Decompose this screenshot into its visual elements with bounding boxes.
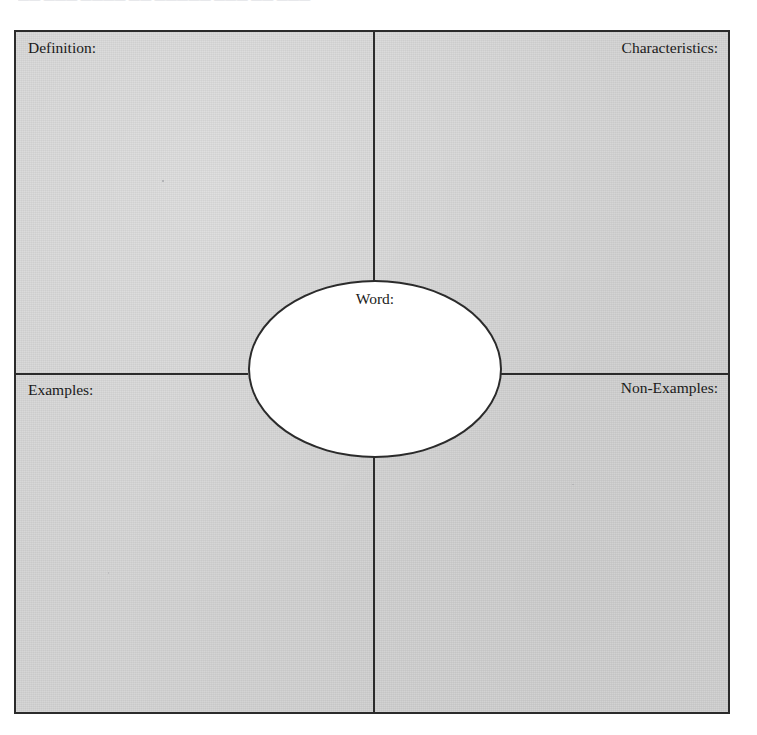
horizontal-divider-right (500, 373, 728, 375)
center-word-ellipse: Word: (248, 280, 502, 458)
quadrant-label-definition: Definition: (28, 38, 96, 57)
center-word-label: Word: (250, 289, 500, 308)
frayer-model-organizer: Definition: Characteristics: Examples: N… (14, 30, 730, 714)
scan-speck (108, 572, 109, 574)
vertical-divider-top (373, 32, 375, 282)
scan-speck (162, 180, 164, 182)
scan-speck (572, 484, 574, 485)
quadrant-label-examples: Examples: (28, 380, 93, 399)
vertical-divider-bottom (373, 457, 375, 712)
quadrant-label-non-examples: Non-Examples: (621, 378, 718, 397)
quadrant-label-characteristics: Characteristics: (622, 38, 718, 57)
horizontal-divider-left (16, 373, 248, 375)
scan-header-text-fragment: ―― ――― ―――― ―― ――――― ――― ―― ――― (18, 0, 438, 5)
